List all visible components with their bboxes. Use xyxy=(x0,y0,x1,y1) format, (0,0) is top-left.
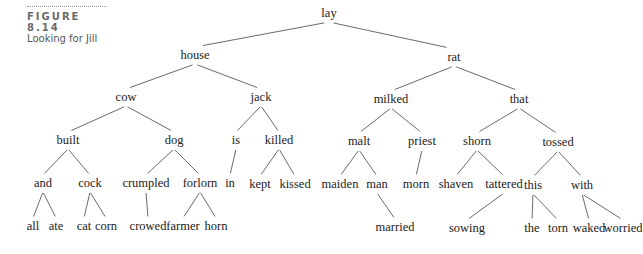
tree-node-corn: corn xyxy=(95,219,118,233)
tree-edge-that-shorn xyxy=(480,109,518,132)
tree-edge-malt-man xyxy=(360,151,376,175)
tree-edge-jack-killed xyxy=(262,107,278,131)
tree-node-rat: rat xyxy=(447,50,461,64)
tree-node-cow: cow xyxy=(116,90,137,104)
tree-edge-shorn-shaven xyxy=(457,151,476,175)
tree-node-that: that xyxy=(510,92,529,106)
tree-edge-with-worried xyxy=(583,195,620,219)
tree-node-kissed: kissed xyxy=(279,177,311,191)
tree-edge-lay-house xyxy=(203,23,324,46)
tree-node-milked: milked xyxy=(374,92,409,106)
tree-node-forlorn: forlorn xyxy=(183,176,218,190)
tree-node-priest: priest xyxy=(408,134,436,148)
tree-edge-cock-corn xyxy=(91,193,105,217)
tree-node-and: and xyxy=(34,176,53,190)
tree-node-the: the xyxy=(524,221,540,235)
tree-edge-rat-milked xyxy=(395,67,452,90)
tree-edge-lay-rat xyxy=(334,23,447,47)
tree-node-cat: cat xyxy=(77,219,92,233)
tree-edge-milked-priest xyxy=(392,109,420,132)
tree-node-man: man xyxy=(366,177,388,191)
tree-node-shaven: shaven xyxy=(439,177,474,191)
tree-edge-milked-malt xyxy=(361,109,390,132)
tree-edge-forlorn-farmer xyxy=(184,193,199,217)
tree-node-cock: cock xyxy=(78,176,102,190)
tree-node-waked: waked xyxy=(573,221,606,235)
tree-node-ate: ate xyxy=(49,219,64,233)
tree-edge-house-cow xyxy=(130,65,192,88)
tree-edge-priest-morn xyxy=(416,151,421,175)
tree-node-tattered: tattered xyxy=(485,177,523,191)
tree-edge-built-cock xyxy=(69,150,89,174)
tree-edge-and-all xyxy=(34,193,43,217)
tree-edge-that-tossed xyxy=(520,109,555,133)
tree-node-built: built xyxy=(57,133,80,147)
tree-edge-tossed-this xyxy=(535,152,558,176)
tree-node-worried: worried xyxy=(604,221,643,235)
tree-node-kept: kept xyxy=(249,177,271,191)
tree-node-all: all xyxy=(27,219,40,233)
tree-node-married: married xyxy=(376,220,416,234)
tree-edge-killed-kissed xyxy=(280,150,294,174)
tree-node-house: house xyxy=(180,48,210,62)
tree-edge-shorn-tattered xyxy=(478,151,502,175)
tree-node-with: with xyxy=(571,178,594,192)
tree-node-shorn: shorn xyxy=(463,134,492,148)
tree-edge-rat-that xyxy=(456,67,515,90)
tree-edge-and-ate xyxy=(43,193,55,217)
tree-edge-built-and xyxy=(45,150,68,174)
tree-edge-cow-dog xyxy=(128,107,171,131)
tree-node-horn: horn xyxy=(205,219,229,233)
tree-node-crowed: crowed xyxy=(130,219,168,233)
tree-node-is: is xyxy=(232,133,240,147)
tree-edge-jack-is xyxy=(238,107,261,131)
tree-edge-crumpled-crowed xyxy=(146,193,148,217)
tree-node-lay: lay xyxy=(321,6,337,20)
tree-node-morn: morn xyxy=(403,177,430,191)
tree-node-dog: dog xyxy=(165,133,185,147)
tree-node-farmer: farmer xyxy=(166,219,200,233)
tree-edge-this-torn xyxy=(534,195,557,219)
tree-nodes: layhouseratcowjackmilkedthatbuiltdogiski… xyxy=(27,6,643,235)
tree-node-maiden: maiden xyxy=(322,177,360,191)
tree-edge-with-waked xyxy=(582,195,588,219)
tree-node-sowing: sowing xyxy=(449,221,486,235)
tree-edge-this-the xyxy=(532,195,533,219)
tree-node-torn: torn xyxy=(548,221,569,235)
tree-node-this: this xyxy=(524,178,542,192)
tree-edge-man-married xyxy=(378,194,394,218)
tree-edge-malt-maiden xyxy=(341,151,358,175)
tree-node-tossed: tossed xyxy=(542,135,574,149)
tree-node-in: in xyxy=(225,176,235,190)
tree-edge-is-in xyxy=(230,150,235,174)
tree-edge-tattered-sowing xyxy=(469,194,502,218)
tree-node-killed: killed xyxy=(265,133,294,147)
tree-node-malt: malt xyxy=(348,134,371,148)
tree-edge-dog-crumpled xyxy=(148,150,173,174)
tree-edge-house-jack xyxy=(197,65,257,88)
tree-node-jack: jack xyxy=(250,90,273,104)
tree-edge-cock-cat xyxy=(84,193,89,217)
binary-tree-diagram: layhouseratcowjackmilkedthatbuiltdogiski… xyxy=(0,0,643,254)
tree-edge-tossed-with xyxy=(559,152,581,176)
tree-edge-killed-kept xyxy=(261,150,278,174)
tree-edge-dog-forlorn xyxy=(175,150,199,174)
tree-edge-forlorn-horn xyxy=(201,193,215,217)
tree-edge-cow-built xyxy=(71,107,123,131)
tree-node-crumpled: crumpled xyxy=(122,176,170,190)
